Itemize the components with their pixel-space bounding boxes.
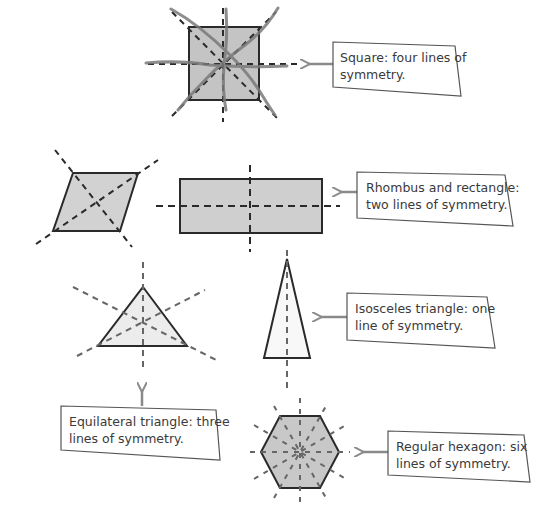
rectangle-figure: [156, 165, 340, 252]
callout-rhombus-rectangle-line1: Rhombus and rectangle:: [366, 180, 520, 195]
callout-isosceles-line2: line of symmetry.: [355, 318, 463, 333]
callout-hexagon-line2: lines of symmetry.: [396, 456, 511, 471]
callout-square-line2: symmetry.: [340, 67, 406, 82]
callout-square-line1: Square: four lines of: [340, 50, 467, 65]
callout-equilateral-line2: lines of symmetry.: [69, 431, 184, 446]
callout-hexagon-line1: Regular hexagon: six: [396, 439, 527, 454]
equilateral-triangle-figure: [73, 262, 220, 372]
callout-hexagon: Regular hexagon: six lines of symmetry.: [362, 431, 530, 482]
callout-equilateral-line1: Equilateral triangle: three: [69, 414, 230, 429]
callout-equilateral: Equilateral triangle: three lines of sym…: [61, 390, 230, 460]
symmetry-diagram: Square: four lines of symmetry. Rhombus …: [0, 0, 546, 512]
rhombus-figure: [36, 150, 158, 247]
regular-hexagon-figure: [250, 398, 350, 506]
callout-rhombus-rectangle-line2: two lines of symmetry.: [366, 197, 507, 212]
square-figure: [146, 8, 298, 122]
callout-isosceles-line1: Isosceles triangle: one: [355, 301, 496, 316]
callout-square: Square: four lines of symmetry.: [308, 42, 467, 96]
callout-isosceles: Isosceles triangle: one line of symmetry…: [320, 293, 496, 348]
callout-rhombus-rectangle: Rhombus and rectangle: two lines of symm…: [340, 172, 520, 226]
isosceles-triangle-figure: [264, 250, 310, 388]
